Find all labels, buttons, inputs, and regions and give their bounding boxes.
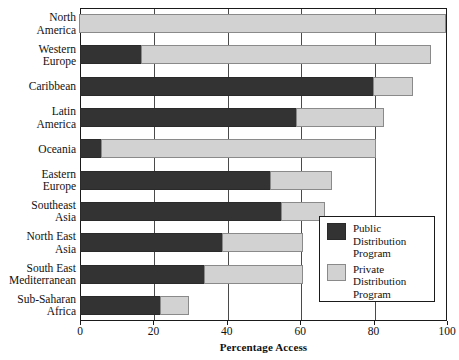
bar-segment-private bbox=[204, 265, 303, 284]
bar-segment-private bbox=[296, 108, 384, 127]
bar-segment-public bbox=[80, 45, 142, 64]
y-axis-label-line: Caribbean bbox=[29, 80, 76, 92]
bar-row bbox=[80, 14, 446, 33]
y-axis-label-line: America bbox=[36, 24, 76, 36]
bar-segment-private bbox=[160, 296, 189, 315]
x-axis-ticks: 020406080100 bbox=[80, 321, 447, 341]
legend-entry-private: PrivateDistributionProgram bbox=[327, 263, 429, 301]
bar-row bbox=[80, 45, 431, 64]
bar-segment-private bbox=[79, 14, 446, 33]
legend-label-line: Distribution bbox=[353, 275, 406, 288]
y-axis-label-1: WesternEurope bbox=[0, 39, 76, 70]
legend-label-line: Program bbox=[353, 247, 406, 260]
bar-segment-public bbox=[80, 77, 374, 96]
bar-row bbox=[80, 202, 325, 221]
y-axis-label-line: Europe bbox=[43, 55, 76, 67]
bar-row bbox=[80, 108, 384, 127]
y-axis-labels: NorthAmericaWesternEuropeCaribbeanLatinA… bbox=[0, 8, 76, 321]
bar-segment-public bbox=[80, 171, 271, 190]
y-axis-label-6: SoutheastAsia bbox=[0, 196, 76, 227]
y-axis-label-9: Sub-SaharanAfrica bbox=[0, 290, 76, 321]
y-axis-label-line: Oceania bbox=[38, 143, 76, 155]
bar-row bbox=[80, 171, 332, 190]
y-axis-label-line: Southeast bbox=[31, 199, 76, 211]
y-axis-label-line: North bbox=[49, 11, 76, 23]
bar-row bbox=[80, 296, 189, 315]
y-axis-label-line: Latin bbox=[52, 105, 76, 117]
bar-segment-private bbox=[101, 139, 376, 158]
legend-label: PublicDistributionProgram bbox=[353, 222, 406, 260]
legend-swatch-public bbox=[327, 223, 346, 240]
bar-segment-public bbox=[80, 265, 205, 284]
y-axis-label-5: EasternEurope bbox=[0, 165, 76, 196]
bar-row bbox=[80, 265, 303, 284]
y-axis-label-line: North East bbox=[26, 230, 76, 242]
bar-segment-private bbox=[270, 171, 332, 190]
bar-segment-private bbox=[373, 77, 413, 96]
legend-label-line: Program bbox=[353, 288, 406, 301]
x-tick-label: 100 bbox=[438, 325, 455, 337]
y-axis-label-line: America bbox=[36, 118, 76, 130]
bar-segment-public bbox=[80, 108, 297, 127]
x-tick-label: 60 bbox=[294, 325, 306, 337]
y-axis-label-line: Western bbox=[39, 43, 76, 55]
y-axis-label-line: South East bbox=[26, 262, 76, 274]
bar-row bbox=[80, 233, 303, 252]
bar-segment-public bbox=[80, 139, 102, 158]
y-axis-label-line: Asia bbox=[55, 211, 76, 223]
bar-row bbox=[80, 77, 413, 96]
legend-label: PrivateDistributionProgram bbox=[353, 263, 406, 301]
stacked-bar-chart: NorthAmericaWesternEuropeCaribbeanLatinA… bbox=[0, 0, 459, 360]
bar-segment-private bbox=[222, 233, 303, 252]
x-axis-title: Percentage Access bbox=[80, 341, 447, 353]
y-axis-label-3: LatinAmerica bbox=[0, 102, 76, 133]
bar-segment-public bbox=[80, 296, 161, 315]
x-tick-label: 0 bbox=[77, 325, 83, 337]
bar-segment-public bbox=[80, 202, 282, 221]
legend-label-line: Private bbox=[353, 263, 406, 276]
y-axis-label-line: Sub-Saharan bbox=[17, 293, 76, 305]
legend-swatch-private bbox=[327, 264, 346, 281]
bar-segment-private bbox=[141, 45, 431, 64]
y-axis-label-line: Eastern bbox=[42, 168, 76, 180]
x-tick-label: 80 bbox=[368, 325, 380, 337]
y-axis-label-line: Asia bbox=[55, 243, 76, 255]
y-axis-label-7: North EastAsia bbox=[0, 227, 76, 258]
y-axis-label-line: Mediterranean bbox=[9, 274, 76, 286]
y-axis-label-line: Europe bbox=[43, 180, 76, 192]
bar-row bbox=[80, 139, 376, 158]
y-axis-label-8: South EastMediterranean bbox=[0, 258, 76, 289]
legend-label-line: Distribution bbox=[353, 235, 406, 248]
y-axis-label-4: Oceania bbox=[0, 133, 76, 164]
x-tick-label: 20 bbox=[148, 325, 160, 337]
y-axis-label-line: Africa bbox=[47, 305, 76, 317]
bar-segment-public bbox=[80, 233, 223, 252]
legend: PublicDistributionProgramPrivateDistribu… bbox=[319, 216, 435, 302]
y-axis-label-2: Caribbean bbox=[0, 71, 76, 102]
legend-entry-public: PublicDistributionProgram bbox=[327, 222, 429, 260]
y-axis-label-0: NorthAmerica bbox=[0, 8, 76, 39]
x-tick-label: 40 bbox=[221, 325, 233, 337]
legend-label-line: Public bbox=[353, 222, 406, 235]
